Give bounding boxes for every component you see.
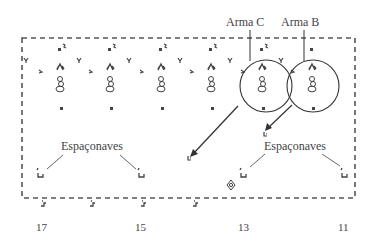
tick-17: 17 [36,222,47,233]
weapon-c-label: Arma C [226,16,264,28]
spaceships-right-leader1 [250,154,265,167]
oscillator [227,180,235,190]
tick-15: 15 [135,222,146,233]
tick-13: 13 [238,222,249,233]
spaceships-left-leader1 [47,155,63,169]
spaceships-left-leader2 [120,155,136,169]
arrow-weapon-c [190,106,238,157]
spaceships-right-label: Espaçonaves [264,140,326,152]
glider [264,132,267,136]
spaceships-right-leader2 [322,154,340,166]
spaceships-left-label: Espaçonaves [61,140,123,152]
bottom-gliders [41,201,198,206]
tick-11: 11 [338,222,349,233]
spaceships [37,168,347,177]
cellular-automaton-diagram [0,0,376,250]
dashed-frame [22,38,355,198]
weapon-b-label: Arma B [281,16,319,28]
diagram: Arma C Arma B Espaçonaves Espaçonaves 17… [0,0,376,250]
pattern-column [24,44,316,110]
